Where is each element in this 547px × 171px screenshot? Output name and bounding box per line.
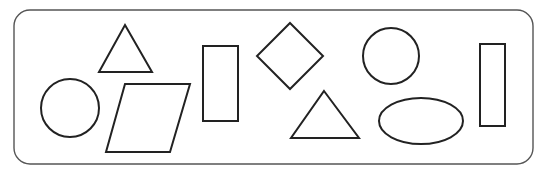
circle-left-shape bbox=[41, 79, 99, 137]
rectangle-right-shape bbox=[480, 44, 505, 126]
circle-right-shape bbox=[363, 28, 419, 84]
rectangle-middle-shape bbox=[203, 46, 238, 121]
parallelogram-shape bbox=[106, 84, 190, 152]
frame-border bbox=[14, 10, 533, 164]
shapes-group bbox=[41, 23, 505, 152]
triangle-top-left-shape bbox=[99, 25, 152, 72]
diamond-shape bbox=[257, 23, 323, 89]
ellipse-shape bbox=[379, 98, 463, 144]
triangle-bottom-middle-shape bbox=[291, 91, 359, 138]
shapes-diagram bbox=[0, 0, 547, 171]
